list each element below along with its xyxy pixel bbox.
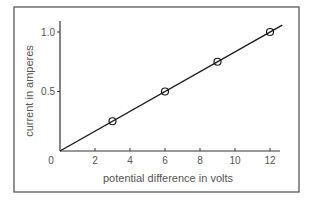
x-tick-label: 2 bbox=[92, 155, 98, 166]
x-tick-label: 8 bbox=[197, 155, 203, 166]
chart-frame bbox=[14, 7, 299, 192]
y-ticks: 0.51.0 bbox=[41, 27, 60, 98]
x-axis-label: potential difference in volts bbox=[103, 172, 234, 184]
y-axis-label: current in amperes bbox=[23, 45, 35, 137]
x-tick-label: 6 bbox=[162, 155, 168, 166]
chart: 24681012 0.51.0 0 potential difference i… bbox=[0, 0, 310, 200]
x-tick-label: 4 bbox=[127, 155, 133, 166]
best-fit-line bbox=[60, 25, 282, 151]
y-tick-label: 0.5 bbox=[41, 86, 55, 97]
y-tick-label: 1.0 bbox=[41, 27, 55, 38]
x-tick-label: 12 bbox=[264, 155, 276, 166]
x-tick-label: 10 bbox=[229, 155, 241, 166]
origin-label: 0 bbox=[48, 155, 54, 166]
